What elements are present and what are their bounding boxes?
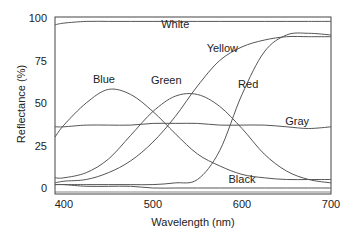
y-tick-label: 0 bbox=[41, 182, 47, 194]
label-white: White bbox=[161, 18, 189, 30]
y-tick-label: 50 bbox=[35, 97, 47, 109]
curves bbox=[55, 21, 331, 188]
series-labels: WhiteYellowRedBlueGreenGrayBlack bbox=[93, 18, 310, 185]
y-tick-label: 100 bbox=[29, 12, 47, 24]
x-tick-label: 700 bbox=[322, 198, 340, 210]
x-tick-label: 600 bbox=[233, 198, 251, 210]
curve-yellow bbox=[55, 36, 331, 182]
curve-green bbox=[55, 94, 331, 183]
x-axis-label: Wavelength (nm) bbox=[151, 216, 234, 228]
curve-red bbox=[55, 33, 331, 185]
x-tick-label: 500 bbox=[144, 198, 162, 210]
label-yellow: Yellow bbox=[207, 42, 238, 54]
curve-white bbox=[55, 21, 331, 25]
label-red: Red bbox=[238, 78, 258, 90]
y-tick-label: 75 bbox=[35, 55, 47, 67]
reflectance-chart: WhiteYellowRedBlueGreenGrayBlack 4005006… bbox=[0, 0, 357, 236]
label-green: Green bbox=[151, 74, 182, 86]
label-blue: Blue bbox=[93, 73, 115, 85]
x-tick-label: 400 bbox=[55, 198, 73, 210]
y-axis-label: Reflectance (%) bbox=[15, 65, 27, 143]
curve-blue bbox=[55, 89, 331, 180]
label-black: Black bbox=[229, 173, 256, 185]
y-tick-label: 25 bbox=[35, 140, 47, 152]
label-gray: Gray bbox=[285, 115, 309, 127]
